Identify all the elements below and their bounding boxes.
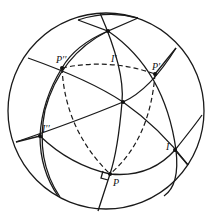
great-circle-diag-1 <box>28 58 188 165</box>
point-p1 <box>153 72 157 76</box>
point-i <box>173 148 177 152</box>
label-p: P <box>112 177 119 188</box>
point-top <box>106 29 110 33</box>
label-i2: I′′ <box>41 123 51 134</box>
dashed-arc-top <box>62 64 155 74</box>
label-p1: P′ <box>151 61 161 72</box>
point-i2 <box>38 134 42 138</box>
label-i: I <box>165 141 170 152</box>
point-center <box>121 100 125 104</box>
dashed-arc-right <box>110 74 155 174</box>
point-p <box>108 172 112 176</box>
sphere-diagram: P′′ I′ P′ I′′ I P <box>0 0 212 223</box>
great-circle-left-outer <box>42 31 108 197</box>
label-p2: P′′ <box>55 54 67 65</box>
great-circle-equator <box>40 115 202 175</box>
point-p2 <box>60 66 64 70</box>
label-i1: I′ <box>110 53 117 64</box>
equator-left-ext <box>16 136 40 142</box>
